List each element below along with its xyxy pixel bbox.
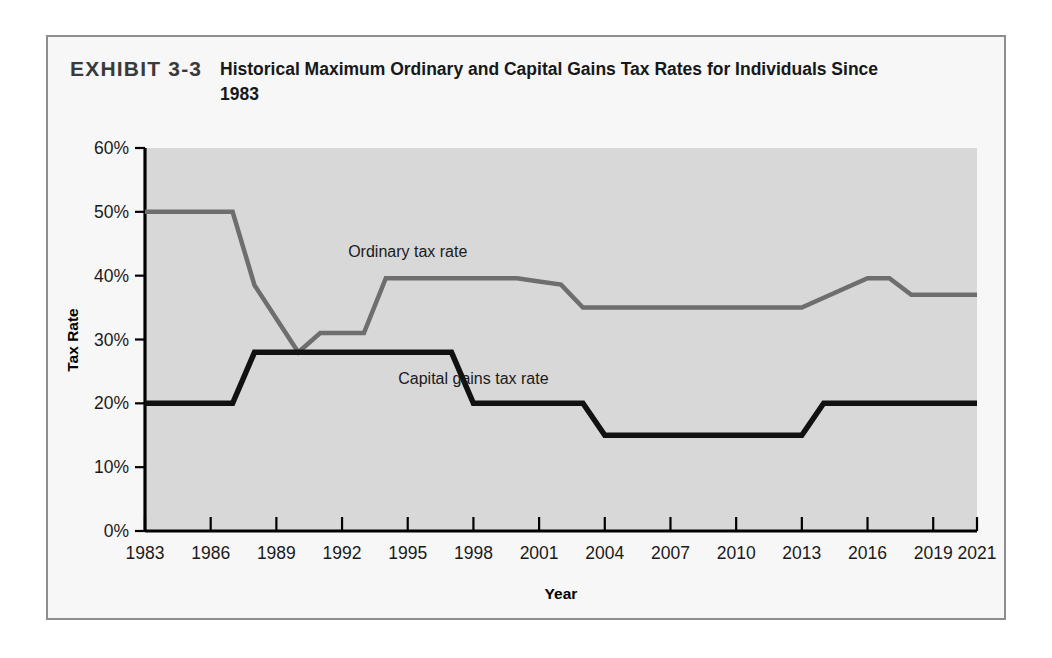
- exhibit-frame: EXHIBIT 3-3Historical Maximum Ordinary a…: [46, 35, 1006, 620]
- x-tick-label: 1998: [454, 543, 493, 563]
- x-axis-tick-labels: 1983198619891992199519982001200420072010…: [126, 543, 997, 563]
- x-tick-label: 1983: [126, 543, 165, 563]
- x-tick-label: 2001: [520, 543, 559, 563]
- series-label-capital-gains-tax-rate: Capital gains tax rate: [398, 370, 548, 387]
- plot-background: [145, 148, 977, 531]
- y-tick-label: 50%: [94, 202, 129, 222]
- x-tick-label: 2019: [914, 543, 953, 563]
- x-tick-label: 2010: [717, 543, 756, 563]
- x-tick-label: 2004: [585, 543, 624, 563]
- x-tick-label: 1986: [191, 543, 230, 563]
- x-tick-label: 2013: [782, 543, 821, 563]
- y-tick-label: 20%: [94, 393, 129, 413]
- y-tick-label: 40%: [94, 266, 129, 286]
- x-tick-label: 1992: [323, 543, 362, 563]
- x-axis-title: Year: [545, 585, 578, 602]
- y-tick-label: 30%: [94, 330, 129, 350]
- tax-rate-line-chart: 0%10%20%30%40%50%60% 1983198619891992199…: [48, 37, 1008, 622]
- chart-canvas: 0%10%20%30%40%50%60% 1983198619891992199…: [48, 37, 1008, 622]
- x-tick-label: 2016: [848, 543, 887, 563]
- y-tick-label: 10%: [94, 457, 129, 477]
- x-tick-label: 1995: [388, 543, 427, 563]
- x-tick-label: 2007: [651, 543, 690, 563]
- y-tick-label: 60%: [94, 138, 129, 158]
- y-axis-title: Tax Rate: [64, 308, 81, 372]
- x-tick-label: 2021: [958, 543, 997, 563]
- x-tick-label: 1989: [257, 543, 296, 563]
- y-axis-tick-labels: 0%10%20%30%40%50%60%: [94, 138, 129, 541]
- y-tick-label: 0%: [104, 521, 129, 541]
- series-label-ordinary-tax-rate: Ordinary tax rate: [348, 243, 467, 260]
